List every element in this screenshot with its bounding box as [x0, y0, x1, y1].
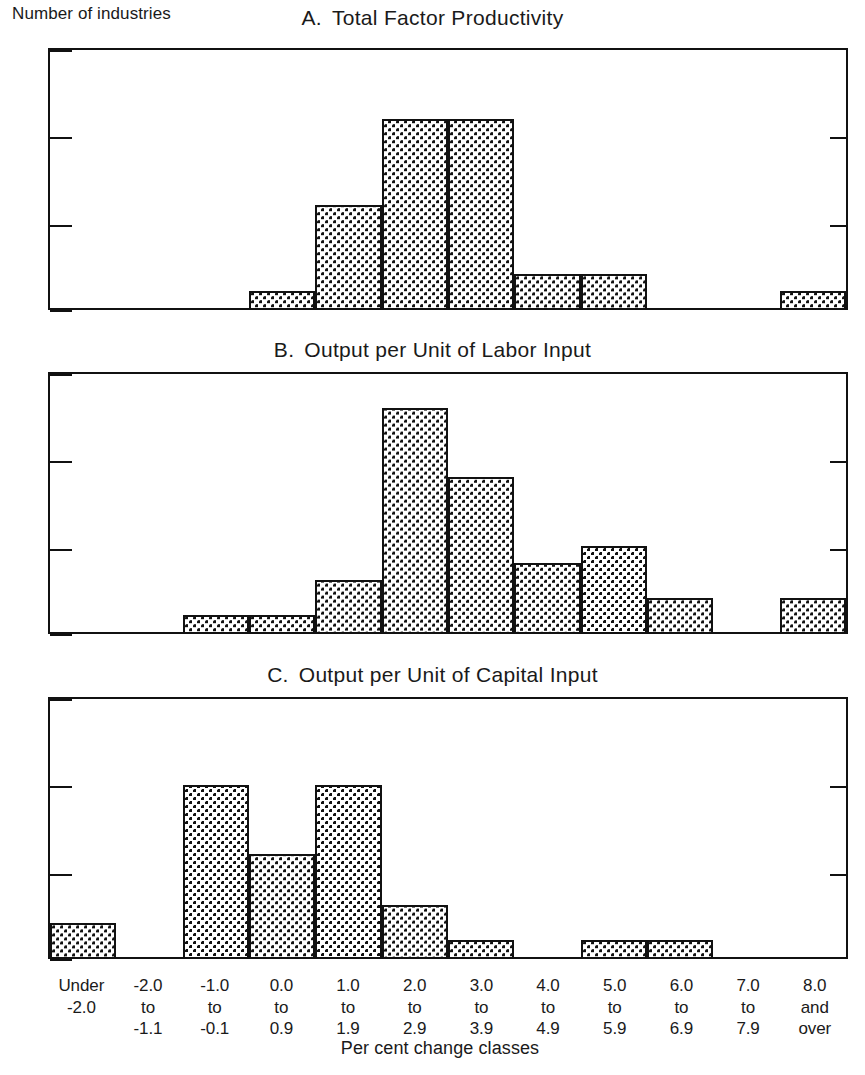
panel-a-axes [48, 48, 848, 310]
bar [382, 905, 448, 957]
panel-a-ytick-10 [50, 137, 72, 139]
bar-bin [183, 374, 249, 632]
bar-bin [647, 50, 713, 308]
x-category-label: 2.0 to 2.9 [381, 975, 448, 1040]
bar-bin [249, 699, 315, 957]
bar-bin [581, 699, 647, 957]
panel-b-ytick-10 [50, 461, 72, 463]
bar [183, 785, 249, 957]
figure-root: Number of industries A.Total Factor Prod… [0, 0, 865, 1075]
panel-a-ytick-0 [50, 310, 72, 312]
bar [448, 940, 514, 957]
x-category-label: 1.0 to 1.9 [315, 975, 382, 1040]
panel-c-letter: C. [267, 663, 289, 686]
x-category-label: 5.0 to 5.9 [581, 975, 648, 1040]
bar [581, 940, 647, 957]
bar-bin [183, 50, 249, 308]
panel-b-ytick-0 [50, 634, 72, 636]
bar [249, 291, 315, 308]
bar [514, 563, 580, 632]
x-category-label: -2.0 to -1.1 [115, 975, 182, 1040]
panel-c-ytick-10 [50, 786, 72, 788]
panel-b-axes [48, 372, 848, 634]
bar-bin [514, 374, 580, 632]
x-category-label: 7.0 to 7.9 [715, 975, 782, 1040]
bar [50, 923, 116, 957]
x-axis-category-labels: Under -2.0-2.0 to -1.1-1.0 to -0.10.0 to… [48, 975, 848, 1040]
panel-a-ytick-15 [50, 50, 72, 52]
panel-c-ytick-right-10 [830, 786, 846, 788]
bar-bin [116, 699, 182, 957]
x-category-label: 6.0 to 6.9 [648, 975, 715, 1040]
bar-bin [448, 50, 514, 308]
bar-bin [249, 374, 315, 632]
panel-c-ytick-0 [50, 959, 72, 961]
panel-a-bars [50, 50, 846, 308]
panel-a-ytick-5 [50, 225, 72, 227]
bar-bin [514, 699, 580, 957]
panel-b-ytick-right-5 [830, 549, 846, 551]
bar-bin [50, 374, 116, 632]
panel-c-title: C.Output per Unit of Capital Input [0, 663, 865, 687]
bar [647, 940, 713, 957]
bar-bin [448, 374, 514, 632]
bar [780, 291, 846, 308]
x-category-label: 3.0 to 3.9 [448, 975, 515, 1040]
bar [647, 598, 713, 632]
x-axis-title: Per cent change classes [48, 1038, 848, 1059]
bar [249, 854, 315, 957]
panel-a-letter: A. [301, 6, 321, 29]
panel-a-title-text: Total Factor Productivity [332, 6, 564, 29]
x-category-label: Under -2.0 [48, 975, 115, 1040]
bar-bin [183, 699, 249, 957]
panel-b-title: B.Output per Unit of Labor Input [0, 338, 865, 362]
bar-bin [647, 374, 713, 632]
bar-bin [315, 374, 381, 632]
panel-a-title: A.Total Factor Productivity [0, 6, 865, 30]
panel-a-ytick-right-10 [830, 137, 846, 139]
x-axis-title-text: Per cent change classes [341, 1038, 539, 1058]
bar [448, 477, 514, 632]
bar-bin [382, 699, 448, 957]
bar-bin [116, 50, 182, 308]
bar-bin [514, 50, 580, 308]
bar-bin [315, 50, 381, 308]
panel-b-ytick-15 [50, 374, 72, 376]
panel-a-ytick-right-5 [830, 225, 846, 227]
bar-bin [50, 50, 116, 308]
panel-c-ytick-15 [50, 699, 72, 701]
bar [514, 274, 580, 308]
x-category-label: 4.0 to 4.9 [515, 975, 582, 1040]
panel-b-ytick-right-10 [830, 461, 846, 463]
bar-bin [780, 699, 846, 957]
bar-bin [780, 374, 846, 632]
bar [315, 785, 381, 957]
bar-bin [780, 50, 846, 308]
bar [315, 580, 381, 632]
bar [382, 119, 448, 308]
bar [581, 274, 647, 308]
bar-bin [249, 50, 315, 308]
bar-bin [647, 699, 713, 957]
panel-b-letter: B. [274, 338, 294, 361]
bar-bin [581, 374, 647, 632]
bar-bin [448, 699, 514, 957]
panel-c-axes [48, 697, 848, 959]
panel-b-ytick-5 [50, 549, 72, 551]
bar [249, 615, 315, 632]
bar [183, 615, 249, 632]
bar-bin [382, 50, 448, 308]
bar-bin [315, 699, 381, 957]
panel-b-title-text: Output per Unit of Labor Input [304, 338, 591, 361]
bar-bin [713, 374, 779, 632]
bar [780, 598, 846, 632]
bar-bin [50, 699, 116, 957]
bar-bin [581, 50, 647, 308]
panel-c-ytick-5 [50, 874, 72, 876]
bar-bin [116, 374, 182, 632]
bar [382, 408, 448, 632]
bar-bin [713, 699, 779, 957]
panel-b-bars [50, 374, 846, 632]
panel-c-bars [50, 699, 846, 957]
panel-c-ytick-right-5 [830, 874, 846, 876]
